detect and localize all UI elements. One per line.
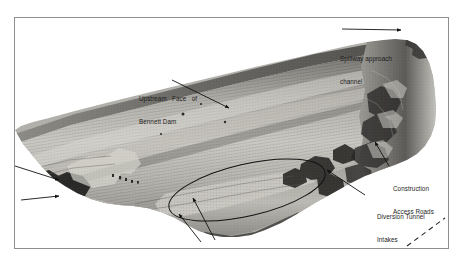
label-spillway-line-2: channel [340, 78, 392, 86]
label-upstream-face-of-bennett-dam: Upstream Face of Bennett Dam [139, 80, 197, 141]
leader-upstream-cofferdam-a [193, 198, 215, 240]
leader-construction-access-roads [375, 142, 389, 166]
callout-ellipse-upstream-cofferdam [163, 147, 331, 234]
label-diversion-line-2: Intakes [377, 236, 425, 244]
label-diversion-line-1: Diversion Tunnel [377, 213, 425, 221]
label-upstream-cofferdam: Upstream Cofferdam [201, 244, 231, 248]
label-upstream-face-word-2: Face [172, 95, 186, 103]
label-upstream-face-line-2: Bennett Dam [139, 118, 197, 126]
leader-diversion-tunnel-intakes [327, 170, 365, 195]
label-construction-line-1: Construction [393, 185, 434, 193]
label-upstream-face-line-1: Upstream Face of [139, 95, 197, 103]
label-spillway-approach-channel: Spillway approach channel [340, 40, 392, 101]
label-upstream-face-word-3: of [192, 95, 197, 103]
label-spillway-line-1: Spillway approach [340, 55, 392, 63]
label-diversion-tunnel-intakes: Diversion Tunnel Intakes [377, 198, 425, 248]
label-upstream-face-word-1: Upstream [139, 95, 167, 103]
leader-spillway-approach-channel [342, 29, 401, 30]
leader-left-edge-marks [15, 166, 59, 200]
aerial-photograph: Spillway approach channel Upstream Face … [15, 18, 448, 248]
figure-container: Spillway approach channel Upstream Face … [0, 0, 463, 266]
